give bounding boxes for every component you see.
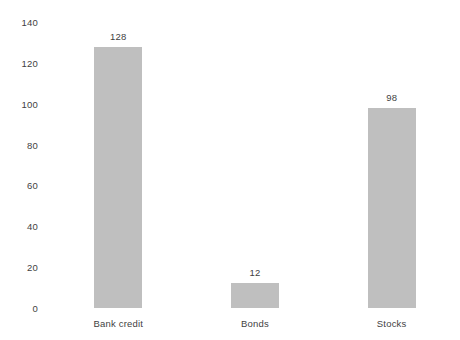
y-axis-tick-label: 100 (22, 98, 38, 109)
x-axis-category-label: Bonds (241, 318, 269, 329)
x-axis-category-label: Stocks (377, 318, 407, 329)
y-axis-tick-label: 80 (27, 139, 38, 150)
y-axis-tick-label: 120 (22, 57, 38, 68)
x-axis-category-label: Bank credit (93, 318, 143, 329)
bar-group: 128Bank credit (50, 0, 187, 340)
bar-chart: 020406080100120140 128Bank credit12Bonds… (0, 0, 460, 340)
bar-group: 98Stocks (323, 0, 460, 340)
y-axis: 020406080100120140 (0, 0, 50, 340)
bar[interactable] (94, 47, 142, 308)
bar-value-label: 128 (110, 31, 126, 42)
bar-group: 12Bonds (187, 0, 324, 340)
bar[interactable] (231, 283, 279, 308)
bar[interactable] (368, 108, 416, 308)
y-axis-tick-label: 140 (22, 17, 38, 28)
y-axis-tick-label: 0 (33, 303, 38, 314)
plot-area: 128Bank credit12Bonds98Stocks (50, 0, 460, 340)
bar-value-label: 98 (386, 92, 397, 103)
y-axis-tick-label: 60 (27, 180, 38, 191)
y-axis-tick-label: 40 (27, 221, 38, 232)
bar-value-label: 12 (250, 267, 261, 278)
y-axis-tick-label: 20 (27, 262, 38, 273)
